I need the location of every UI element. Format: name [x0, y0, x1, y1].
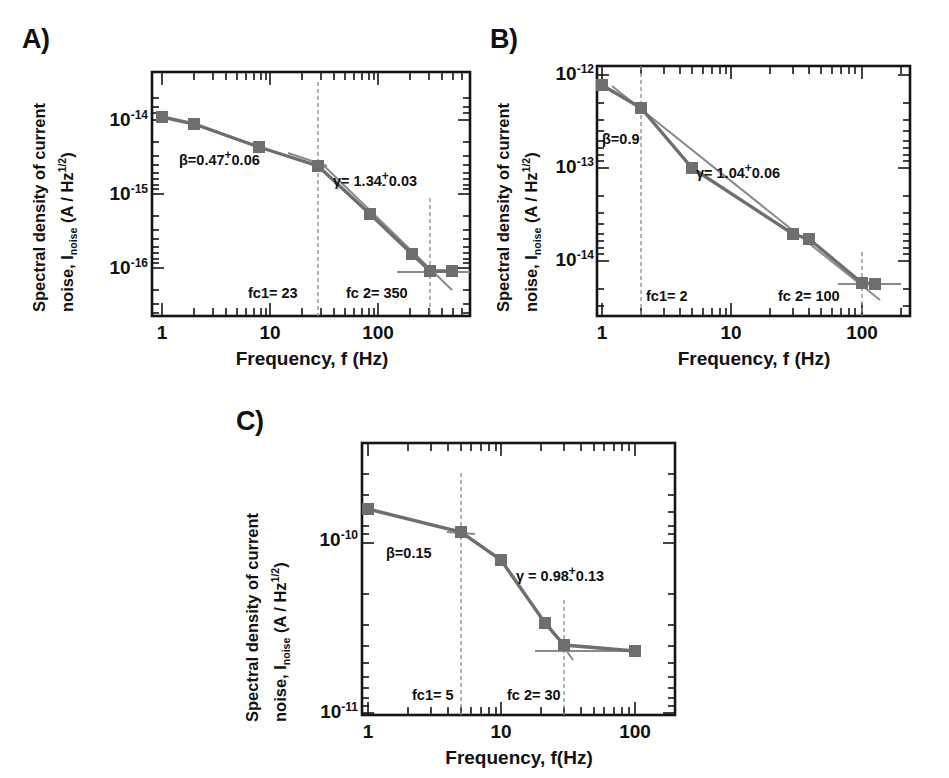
- panel-c-xtick-2: 100: [615, 721, 655, 743]
- panel-c-yticks: [362, 474, 675, 713]
- data-point: [495, 554, 507, 566]
- data-point: [455, 526, 467, 538]
- plus-minus-icon: +-: [569, 566, 576, 581]
- panel-c-xtick-1: 10: [481, 721, 521, 743]
- data-point: [539, 617, 551, 629]
- panel-c-xtick-0: 1: [348, 721, 388, 743]
- panel-c-fc2-label: fc 2= 30: [507, 687, 561, 703]
- panel-c-plot-svg: [0, 0, 949, 778]
- data-point: [558, 639, 570, 651]
- panel-c-xlabel: Frequency, f(Hz): [389, 747, 649, 769]
- panel-c-fc1-label: fc1= 5: [412, 687, 454, 703]
- data-point: [629, 645, 641, 657]
- panel-c-beta-annotation: β=0.15: [386, 545, 432, 561]
- panel-c-gamma-error: 0.13: [576, 568, 604, 584]
- panel-c-gamma-value: γ = 0.98: [516, 568, 569, 584]
- panel-c-gamma-annotation: γ = 0.98+-0.13: [516, 566, 604, 584]
- data-point: [362, 503, 374, 515]
- panel-c-beta-value: β=0.15: [386, 545, 432, 561]
